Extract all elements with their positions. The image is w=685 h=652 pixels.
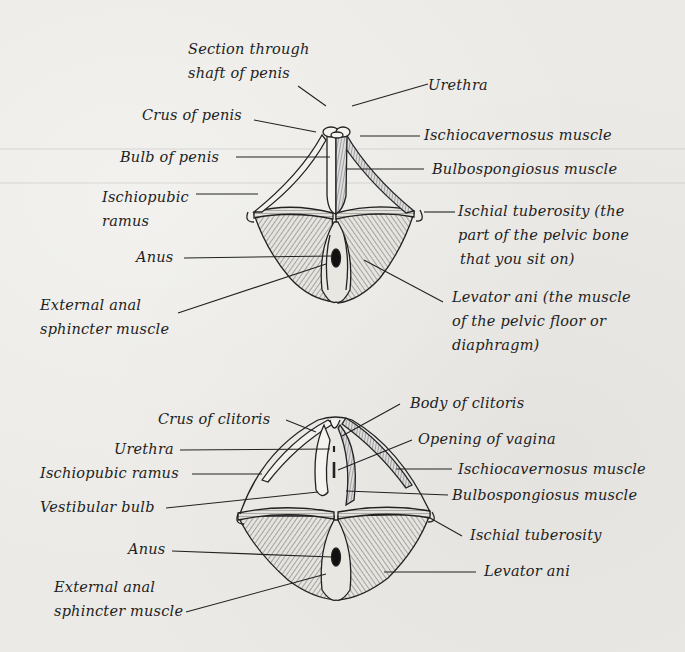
label-urethra-female: Urethra: [114, 438, 174, 460]
label-anus-male: Anus: [136, 246, 173, 268]
label-levator-ani-male-line3: diaphragm): [452, 334, 539, 356]
label-levator-ani-female: Levator ani: [484, 560, 570, 582]
label-anus-female: Anus: [128, 538, 165, 560]
label-levator-ani-male-line2: of the pelvic floor or: [452, 310, 606, 332]
label-bulb-of-penis: Bulb of penis: [120, 146, 219, 168]
label-external-anal-sphincter-male-line1: External anal: [40, 294, 141, 316]
label-vestibular-bulb: Vestibular bulb: [40, 496, 155, 518]
label-ischial-tuberosity-male-line2: part of the pelvic bone: [458, 224, 629, 246]
label-ischial-tuberosity-male-line1: Ischial tuberosity (the: [458, 200, 625, 222]
label-urethra-male: Urethra: [428, 74, 488, 96]
label-crus-of-clitoris: Crus of clitoris: [158, 408, 270, 430]
label-section-through-shaft-line2: shaft of penis: [188, 62, 290, 84]
label-ischial-tuberosity-male-line3: that you sit on): [460, 248, 575, 270]
label-ischiocavernosus-male: Ischiocavernosus muscle: [424, 124, 612, 146]
label-bulbospongiosus-male: Bulbospongiosus muscle: [432, 158, 617, 180]
label-external-anal-sphincter-male-line2: sphincter muscle: [40, 318, 169, 340]
label-ischial-tuberosity-female: Ischial tuberosity: [470, 524, 602, 546]
label-section-through-shaft-line1: Section through: [188, 38, 310, 60]
label-ischiocavernosus-female: Ischiocavernosus muscle: [458, 458, 646, 480]
female-perineum-drawing: [237, 417, 434, 600]
label-opening-of-vagina: Opening of vagina: [418, 428, 556, 450]
label-ischiopubic-ramus-male-line2: ramus: [102, 210, 149, 232]
label-crus-of-penis: Crus of penis: [142, 104, 242, 126]
label-levator-ani-male-line1: Levator ani (the muscle: [452, 286, 631, 308]
label-body-of-clitoris: Body of clitoris: [410, 392, 524, 414]
label-ischiopubic-ramus-female: Ischiopubic ramus: [40, 462, 179, 484]
label-bulbospongiosus-female: Bulbospongiosus muscle: [452, 484, 637, 506]
label-external-anal-sphincter-female-line1: External anal: [54, 576, 155, 598]
label-ischiopubic-ramus-male-line1: Ischiopubic: [102, 186, 189, 208]
label-external-anal-sphincter-female-line2: sphincter muscle: [54, 600, 183, 622]
